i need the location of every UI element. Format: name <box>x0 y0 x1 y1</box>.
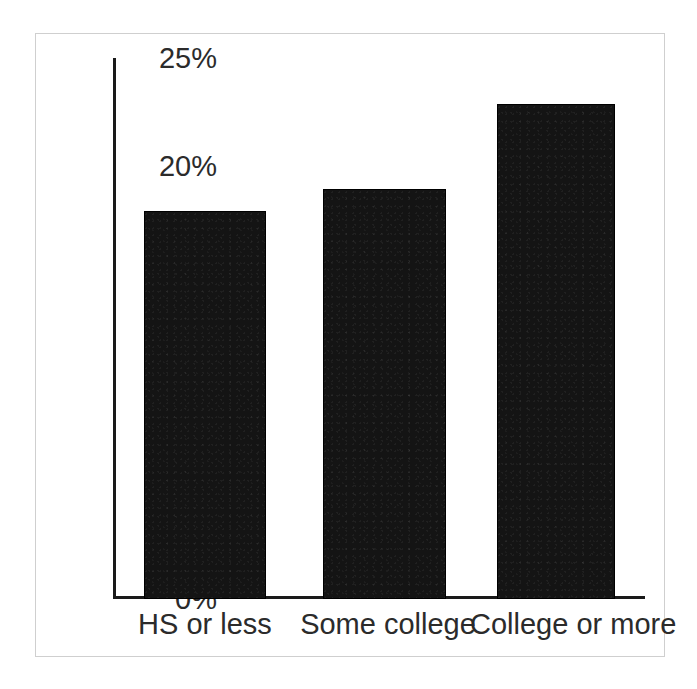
x-tick-label-hs-or-less: HS or less <box>115 607 295 641</box>
bar-some-college <box>323 189 446 599</box>
bar-chart-figure: 25% 20% 15% 10% 5% 0% HS or less Some co… <box>0 0 697 689</box>
plot-area: 25% 20% 15% 10% 5% 0% <box>115 58 645 599</box>
y-tick-label-20: 20% <box>107 152 217 181</box>
x-tick-label-college-or-more: College or more <box>470 607 670 641</box>
x-tick-label-some-college: Some college <box>298 607 478 641</box>
x-axis-tick-labels: HS or less Some college College or more <box>115 607 655 647</box>
bar-hs-or-less <box>144 211 266 599</box>
y-tick-label-25: 25% <box>107 44 217 73</box>
bar-college-or-more <box>497 104 615 599</box>
